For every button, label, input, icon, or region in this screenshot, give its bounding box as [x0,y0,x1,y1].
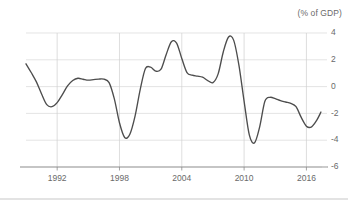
y-axis-tick-label: 0 [331,81,336,91]
series-line-balance [26,36,321,143]
line-chart-plot: 420-2-4-6 19921998200420102016 [0,0,348,200]
x-axis-tick-label: 1998 [110,173,129,183]
y-axis-tick-label: -4 [331,134,339,144]
vertical-gridlines-group [57,33,306,167]
y-axis-tick-label: -2 [331,108,339,118]
y-axis-tick-label: -6 [331,161,339,171]
x-axis-tick-labels: 19921998200420102016 [48,173,316,183]
x-axis-tick-label: 1992 [48,173,67,183]
chart-figure: (% of GDP) 420-2-4-6 1992199820042010201… [0,0,348,200]
bottom-rule-divider [0,198,348,200]
y-axis-tick-label: 2 [331,54,336,64]
x-axis-tick-label: 2010 [235,173,254,183]
y-axis-tick-labels: 420-2-4-6 [331,27,339,171]
series-group [26,36,321,143]
y-axis-tick-label: 4 [331,27,336,37]
x-axis-tick-label: 2004 [172,173,191,183]
gridlines-group [26,33,322,140]
x-axis-tick-label: 2016 [297,173,316,183]
